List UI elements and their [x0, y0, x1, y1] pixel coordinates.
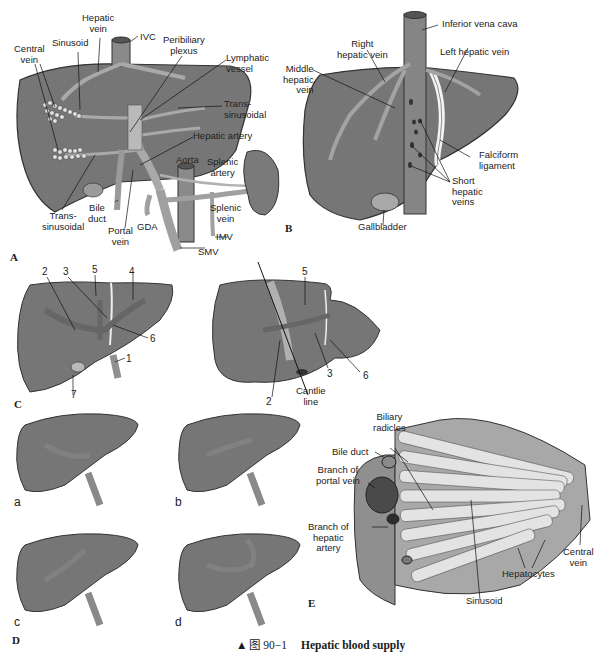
label-branch-hepatic-artery: Branch of hepatic artery: [308, 522, 349, 554]
panel-b-liver: [303, 12, 518, 221]
label-lymphatic-vessel: Lymphatic vessel: [226, 53, 269, 74]
label-splenic-vein: Splenic vein: [210, 203, 241, 224]
segment-number: 4: [129, 266, 135, 277]
panel-letter-a: A: [10, 251, 18, 263]
label-cantlie-line: Cantlie line: [296, 386, 326, 407]
label-splenic-artery: Splenic artery: [207, 157, 238, 178]
segment-number: 7: [71, 389, 77, 400]
label-sinusoid-e: Sinusoid: [466, 596, 502, 607]
label-smv: SMV: [198, 247, 219, 258]
label-right-hepatic-vein: Right hepatic vein: [337, 39, 388, 60]
label-branch-portal-vein: Branch of portal vein: [316, 465, 360, 486]
label-inferior-vena-cava: Inferior vena cava: [442, 19, 518, 30]
panel-letter-c: C: [14, 398, 22, 410]
caption-title: Hepatic blood supply: [301, 639, 405, 651]
label-hepatocytes: Hepatocytes: [502, 569, 555, 580]
label-portal-vein: Portal vein: [108, 226, 133, 247]
label-trans-sinusoidal-left: Trans- sinusoidal: [42, 211, 84, 232]
label-ivc: IVC: [140, 32, 156, 43]
panel-letter-b: B: [285, 222, 292, 234]
segment-number: 3: [327, 368, 333, 379]
label-trans-sinusoidal-right: Trans- sinusoidal: [224, 99, 266, 120]
variant-label-c: c: [14, 615, 20, 629]
caption-number: 图 90−1: [249, 639, 287, 651]
label-central-vein-e: Central vein: [563, 547, 594, 568]
panel-c-right-liver: [212, 262, 380, 395]
panel-letter-e: E: [308, 597, 315, 609]
segment-number: 6: [150, 333, 156, 344]
segment-number: 2: [42, 266, 48, 277]
label-gallbladder: Gallbladder: [358, 222, 407, 233]
panel-d-livers: [17, 414, 300, 625]
label-hepatic-vein: Hepatic vein: [82, 13, 114, 34]
segment-number: 5: [92, 264, 98, 275]
label-left-hepatic-vein: Left hepatic vein: [440, 47, 509, 58]
label-bile-duct: Bile duct: [88, 203, 106, 224]
segment-number: 3: [63, 266, 69, 277]
label-biliary-radicles: Biliary radicles: [373, 412, 406, 433]
label-gda: GDA: [137, 222, 158, 233]
figure-artwork: [0, 0, 602, 656]
label-falciform-ligament: Falciform ligament: [479, 150, 518, 171]
variant-label-b: b: [175, 495, 182, 509]
label-aorta: Aorta: [176, 155, 199, 166]
label-central-vein: Central vein: [14, 44, 45, 65]
label-peribiliary-plexus: Peribiliary plexus: [163, 35, 205, 56]
label-imv: IMV: [216, 232, 233, 243]
panel-letter-d: D: [12, 634, 20, 646]
label-sinusoid: Sinusoid: [52, 38, 88, 49]
figure-caption: ▲图 90−1Hepatic blood supply: [236, 636, 405, 652]
caption-marker: ▲: [236, 639, 247, 651]
label-hepatic-artery: Hepatic artery: [193, 131, 252, 142]
segment-number: 6: [363, 370, 369, 381]
label-short-hepatic-veins: Short hepatic veins: [452, 176, 483, 208]
label-bile-duct-e: Bile duct: [332, 447, 368, 458]
segment-number: 5: [302, 266, 308, 277]
panel-a-liver: [17, 37, 251, 212]
segment-number: 1: [126, 353, 132, 364]
variant-label-d: d: [175, 615, 182, 629]
label-middle-hepatic-vein: Middle hepatic vein: [283, 64, 314, 96]
variant-label-a: a: [14, 495, 21, 509]
segment-number: 2: [266, 396, 272, 407]
